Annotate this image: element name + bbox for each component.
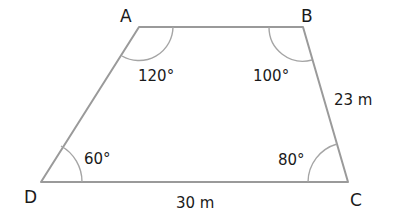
quadrilateral-diagram: A B C D 120° 100° 80° 60° 23 m 30 m (0, 0, 410, 221)
angle-label-b: 100° (253, 67, 289, 85)
angle-arc-a (122, 27, 173, 61)
angle-arc-d (61, 146, 82, 182)
angle-arc-c (308, 144, 337, 182)
vertex-label-c: C (350, 190, 362, 210)
side-label-dc: 30 m (176, 194, 214, 212)
vertex-label-b: B (301, 6, 313, 26)
angle-label-d: 60° (84, 150, 111, 168)
side-label-bc: 23 m (334, 91, 372, 109)
vertex-label-d: D (24, 187, 37, 207)
angle-arc-b (269, 27, 312, 61)
vertex-label-a: A (120, 6, 132, 26)
angle-label-a: 120° (138, 67, 174, 85)
angle-label-c: 80° (278, 151, 305, 169)
